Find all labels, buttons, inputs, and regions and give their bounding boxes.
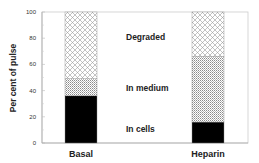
bar-segment-degraded: [192, 12, 224, 57]
bar-segment-in-medium: [65, 79, 97, 96]
category-label-heparin: Heparin: [191, 149, 225, 159]
y-axis-title: Per cent of pulse: [8, 43, 18, 112]
y-tick-label: 100: [26, 9, 37, 15]
bar-segment-degraded: [65, 12, 97, 79]
y-tick-label: 40: [29, 88, 36, 94]
category-label-basal: Basal: [69, 149, 93, 159]
y-tick-label: 80: [29, 35, 36, 41]
y-tick-label: 20: [29, 114, 36, 120]
bar-segment-in-cells: [192, 122, 224, 143]
segment-label-in-cells: In cells: [126, 124, 155, 134]
segment-label-in-medium: In medium: [126, 83, 169, 93]
bar-basal: [65, 12, 97, 143]
bar-segment-in-cells: [65, 96, 97, 143]
y-tick-label: 0: [33, 140, 37, 146]
category-labels: BasalHeparin: [69, 149, 225, 159]
segment-labels: DegradedIn mediumIn cells: [126, 32, 169, 134]
bar-heparin: [192, 12, 224, 143]
y-tick-label: 60: [29, 61, 36, 67]
stacked-bar-chart: 020406080100 DegradedIn mediumIn cells B…: [0, 0, 259, 163]
segment-label-degraded: Degraded: [126, 32, 165, 42]
bar-segment-in-medium: [192, 57, 224, 123]
